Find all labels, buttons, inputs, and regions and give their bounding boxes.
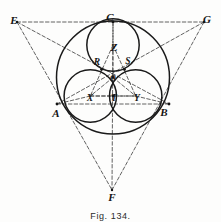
figure-caption: Fig. 134.: [0, 211, 221, 221]
point-label-Z: Z: [111, 42, 118, 53]
tangency-A: [56, 103, 59, 106]
point-label-O: O: [110, 75, 116, 83]
point-label-G: G: [203, 14, 211, 25]
point-label-S: S: [125, 57, 130, 67]
point-label-E: E: [10, 15, 17, 26]
point-label-X: X: [87, 94, 93, 104]
point-label-T: T: [111, 94, 117, 104]
figure-container: ECGZRSOXTYABF Fig. 134.: [0, 0, 221, 222]
tangency-B: [168, 103, 171, 106]
tangency-S: [123, 68, 126, 71]
point-label-C: C: [106, 12, 113, 23]
geometry-diagram: [0, 0, 221, 222]
point-label-F: F: [108, 192, 115, 203]
line-G-F: [112, 22, 204, 190]
tangency-R: [100, 68, 103, 71]
point-label-R: R: [94, 58, 100, 68]
point-label-Y: Y: [134, 94, 140, 104]
point-label-B: B: [160, 107, 167, 118]
point-label-A: A: [52, 108, 59, 119]
